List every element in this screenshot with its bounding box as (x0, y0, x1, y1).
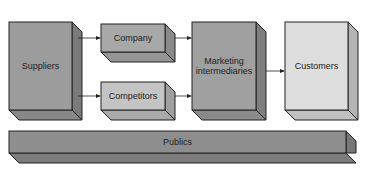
company-box (101, 24, 175, 62)
diagram-canvas (0, 0, 369, 173)
suppliers-box (9, 22, 82, 120)
customers-box (285, 22, 358, 120)
competitors-box (101, 82, 175, 120)
publics-box (9, 131, 356, 163)
marketing-intermediaries-box (192, 22, 266, 120)
